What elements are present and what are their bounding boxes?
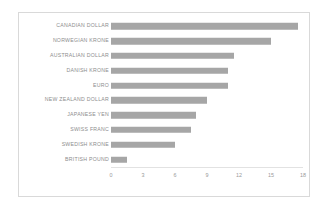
bar (111, 68, 228, 75)
bar-row: AUSTRALIAN DOLLAR (19, 49, 309, 64)
bar (111, 23, 298, 30)
category-label: BRITISH POUND (0, 157, 109, 162)
x-tick-label: 3 (142, 173, 145, 178)
x-tick-label: 18 (300, 173, 306, 178)
bar-track (111, 19, 303, 34)
bar-track (111, 123, 303, 138)
x-tick-label: 15 (268, 173, 274, 178)
bar (111, 112, 196, 119)
bar-row: BRITISH POUND (19, 152, 309, 167)
bar-track (111, 93, 303, 108)
chart-container: CANADIAN DOLLARNORWEGIAN KRONEAUSTRALIAN… (18, 12, 310, 197)
category-label: EURO (0, 83, 109, 88)
category-label: AUSTRALIAN DOLLAR (0, 53, 109, 58)
x-axis-line (111, 167, 303, 168)
bar-track (111, 137, 303, 152)
category-label: SWISS FRANC (0, 127, 109, 132)
bar (111, 156, 127, 163)
bar-row: EURO (19, 78, 309, 93)
bar (111, 142, 175, 149)
bar-row: NORWEGIAN KRONE (19, 34, 309, 49)
x-axis: 0369121518 (111, 167, 303, 187)
bar-track (111, 63, 303, 78)
bar (111, 127, 191, 134)
bar-row: NEW ZEALAND DOLLAR (19, 93, 309, 108)
plot-area: CANADIAN DOLLARNORWEGIAN KRONEAUSTRALIAN… (19, 13, 309, 196)
bar-track (111, 34, 303, 49)
x-tick-label: 0 (110, 173, 113, 178)
bar-row: DANISH KRONE (19, 63, 309, 78)
bar-row: SWEDISH KRONE (19, 137, 309, 152)
bar-track (111, 152, 303, 167)
bar-track (111, 78, 303, 93)
category-label: CANADIAN DOLLAR (0, 24, 109, 29)
bar-series: CANADIAN DOLLARNORWEGIAN KRONEAUSTRALIAN… (19, 19, 309, 167)
x-tick-label: 9 (206, 173, 209, 178)
category-label: NORWEGIAN KRONE (0, 39, 109, 44)
bar-row: JAPANESE YEN (19, 108, 309, 123)
category-label: NEW ZEALAND DOLLAR (0, 98, 109, 103)
bar (111, 97, 207, 104)
bar (111, 38, 271, 45)
x-tick-label: 12 (236, 173, 242, 178)
bar (111, 53, 234, 60)
bar-row: CANADIAN DOLLAR (19, 19, 309, 34)
category-label: SWEDISH KRONE (0, 142, 109, 147)
x-tick-label: 6 (174, 173, 177, 178)
bar-track (111, 49, 303, 64)
bar-track (111, 108, 303, 123)
bar (111, 82, 228, 89)
bar-row: SWISS FRANC (19, 123, 309, 138)
category-label: DANISH KRONE (0, 68, 109, 73)
category-label: JAPANESE YEN (0, 113, 109, 118)
